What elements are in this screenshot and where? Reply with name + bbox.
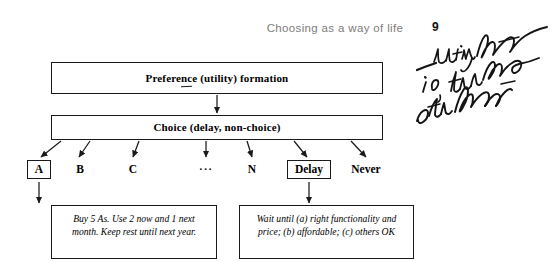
outcome-n-label: N bbox=[248, 163, 256, 175]
handwritten-annotation bbox=[415, 18, 558, 128]
outcome-c-label: C bbox=[129, 163, 137, 175]
figure-page: Choosing as a way of life 9 Preference (… bbox=[0, 0, 558, 261]
arrow-choice-to-b bbox=[79, 141, 90, 157]
outcome-ellipsis-label: ··· bbox=[199, 163, 213, 175]
outcome-a: A bbox=[27, 160, 51, 179]
outcome-never-label: Never bbox=[351, 163, 380, 175]
outcome-n: N bbox=[243, 160, 261, 178]
node-choice-label: Choice (delay, non-choice) bbox=[153, 121, 280, 133]
node-choice: Choice (delay, non-choice) bbox=[51, 115, 383, 140]
outcome-b-label: B bbox=[76, 163, 84, 175]
outcome-c: C bbox=[124, 160, 142, 178]
outcome-delay: Delay bbox=[287, 160, 331, 179]
outcome-a-label: A bbox=[35, 163, 43, 175]
node-preference-formation-label: Preference (utility) formation bbox=[146, 72, 289, 84]
arrow-choice-to-a bbox=[41, 141, 61, 157]
note-box-right: Wait until (a) right functionality and p… bbox=[239, 205, 414, 259]
outcome-ellipsis: ··· bbox=[196, 160, 216, 178]
outcome-delay-label: Delay bbox=[295, 163, 323, 175]
arrow-choice-to-n bbox=[247, 141, 252, 157]
note-box-left: Buy 5 As. Use 2 now and 1 next month. Ke… bbox=[51, 205, 217, 259]
arrow-choice-to-delay bbox=[294, 141, 307, 157]
arrow-choice-to-c bbox=[133, 141, 139, 157]
running-head: Choosing as a way of life bbox=[240, 22, 430, 34]
arrow-choice-to-never bbox=[351, 141, 366, 157]
node-preference-formation: Preference (utility) formation bbox=[51, 62, 383, 94]
outcome-b: B bbox=[71, 160, 89, 178]
page-number: 9 bbox=[432, 20, 439, 34]
outcome-never: Never bbox=[345, 160, 387, 178]
